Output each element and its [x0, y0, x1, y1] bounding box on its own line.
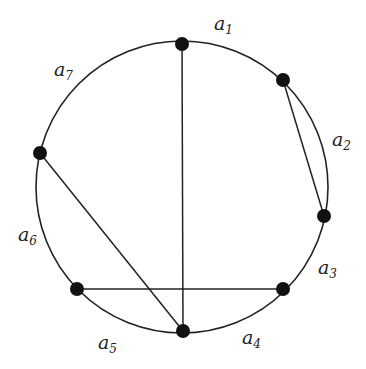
chord-n2-n3: [283, 80, 324, 216]
node-5: [176, 324, 190, 338]
node-7: [33, 146, 47, 160]
node-1: [175, 37, 189, 51]
chord-a1-a5: [182, 44, 183, 331]
node-3: [317, 209, 331, 223]
node-6: [70, 282, 84, 296]
arc-label-a7: a7: [54, 60, 73, 82]
arc-label-a1: a1: [214, 14, 233, 36]
arc-label-a5: a5: [98, 333, 117, 355]
arc-label-a2: a2: [332, 130, 351, 152]
arc-label-a4: a4: [242, 328, 261, 350]
node-4: [276, 282, 290, 296]
node-2: [276, 73, 290, 87]
chord-n7-n5: [40, 153, 183, 331]
arc-label-a3: a3: [318, 258, 337, 280]
circle-graph-diagram: [0, 0, 366, 369]
arc-label-a6: a6: [18, 225, 37, 247]
